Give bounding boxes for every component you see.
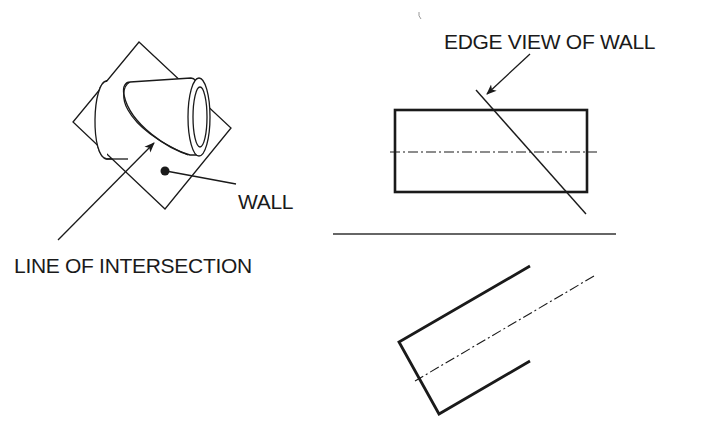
cylinder-front-rect [395,110,587,192]
diagram-drawing [0,0,709,436]
auxiliary-centerline [415,276,594,381]
edge-view-of-wall-line [476,90,586,214]
edge-view-of-wall-label: EDGE VIEW OF WALL [444,31,655,52]
wall-label: WALL [238,191,293,212]
edge-view-leader-arrow [487,54,530,94]
stray-mark [419,12,421,19]
auxiliary-view [399,266,594,414]
line-of-intersection-label: LINE OF INTERSECTION [14,255,252,276]
pictorial-view [58,42,236,240]
diagram-canvas: WALL LINE OF INTERSECTION EDGE VIEW OF W… [0,0,709,436]
front-view [390,54,597,214]
truncated-cylinder-outline [399,266,530,414]
